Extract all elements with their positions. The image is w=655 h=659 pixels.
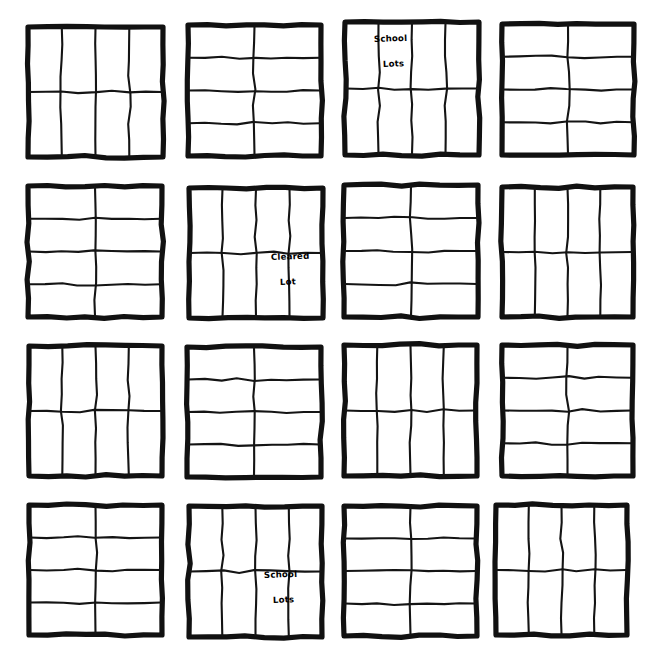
city-block [27, 186, 163, 319]
lot-division-line-horizontal [503, 252, 632, 254]
city-block [28, 504, 162, 636]
city-block [28, 345, 163, 477]
city-block [28, 26, 165, 158]
city-block [501, 186, 634, 318]
plat-map-drawing: SchoolLotsClearedLotSchoolLots [0, 0, 655, 659]
lot-division-line-horizontal [189, 57, 320, 59]
city-block [187, 25, 322, 157]
city-block: SchoolLots [344, 21, 480, 156]
city-block: ClearedLot [189, 187, 324, 318]
city-block [502, 344, 634, 477]
city-block [343, 184, 479, 318]
city-block [343, 505, 477, 637]
lot-label-line-2: Lots [383, 58, 405, 69]
lot-label-line-1: School [374, 33, 408, 44]
city-block: SchoolLots [188, 506, 323, 638]
city-block [502, 23, 635, 155]
lot-label-line-2: Lots [273, 594, 295, 605]
plat-map-sheet: SchoolLotsClearedLotSchoolLots [0, 0, 655, 659]
lot-division-line-horizontal [29, 91, 162, 93]
lot-label-line-1: School [264, 569, 298, 580]
lot-label-line-1: Cleared [271, 251, 310, 262]
city-block [495, 504, 628, 636]
city-block [187, 346, 323, 478]
lot-division-line-vertical [443, 346, 444, 475]
city-block [344, 344, 477, 477]
lot-label-line-2: Lot [280, 276, 296, 287]
